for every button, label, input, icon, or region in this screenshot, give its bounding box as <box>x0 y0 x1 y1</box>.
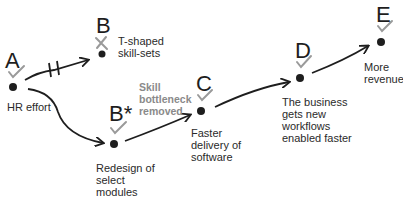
node-a-label: HR effort <box>7 101 51 113</box>
node-b-dot <box>99 51 106 58</box>
node-d-dot <box>296 74 304 82</box>
node-b-letter: B <box>96 15 111 37</box>
node-b-label: T-shaped skill-sets <box>118 35 164 59</box>
edge-d-e <box>312 46 368 73</box>
node-c-dot <box>197 107 205 115</box>
node-d-label: The business gets new workflows enabled … <box>282 96 352 144</box>
blocker-bar-2 <box>57 61 59 75</box>
blocker-bar-1 <box>49 63 51 77</box>
cross-icon-b <box>96 37 107 49</box>
node-d-letter: D <box>295 40 311 62</box>
node-a-dot <box>9 83 17 91</box>
edge-c-d <box>215 82 289 107</box>
edge-bstar-c <box>125 115 190 141</box>
node-bstar-label: Redesign of select modules <box>96 162 155 198</box>
node-e-label: More revenue <box>364 61 403 85</box>
node-e-letter: E <box>376 4 391 26</box>
node-bstar-dot <box>110 140 118 148</box>
skill-bottleneck-annotation: Skill bottleneck removed <box>139 81 192 117</box>
node-c-label: Faster delivery of software <box>191 127 241 163</box>
node-a-letter: A <box>5 50 20 72</box>
edge-a-bstar <box>28 89 103 143</box>
node-c-letter: C <box>196 73 212 95</box>
diagram-canvas: A B B* C D E HR effort T-shaped skill-se… <box>0 0 403 213</box>
node-bstar-letter: B* <box>109 103 132 125</box>
node-e-dot <box>377 38 385 46</box>
